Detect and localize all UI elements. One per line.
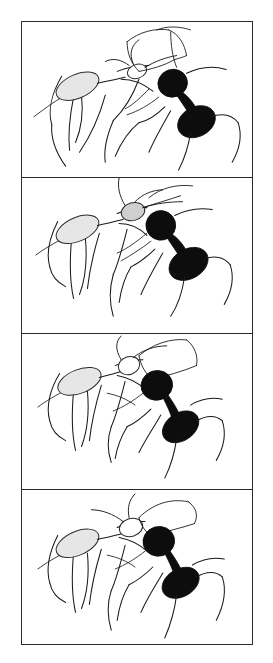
light-ant-leg-1: [50, 76, 61, 124]
dark-ant-leg-5: [141, 253, 163, 294]
light-ant-panel-4: [38, 494, 147, 630]
light-ant-leg-6: [87, 233, 99, 288]
panel-3-drawing: [22, 334, 252, 489]
figure-panel-3: [21, 333, 253, 490]
light-ant-leg-5b: [110, 275, 113, 316]
light-ant-head: [125, 61, 148, 81]
light-ant-leg-6: [89, 549, 101, 604]
light-ant-leg-1b: [50, 267, 66, 287]
dark-ant-leg-2b: [224, 265, 232, 304]
light-ant-leg-2: [70, 239, 73, 298]
light-ant-gaster: [52, 523, 103, 563]
light-ant-petiole: [97, 533, 123, 539]
light-ant-petiole: [97, 77, 125, 83]
dark-ant-leg-1: [175, 209, 213, 216]
light-ant-leg-2: [69, 97, 74, 150]
light-ant-antenna-3: [143, 202, 183, 208]
light-ant-antenna-2: [131, 40, 139, 64]
dark-ant-leg-3: [165, 439, 177, 478]
panel-4-drawing: [22, 490, 252, 644]
dark-ant-leg-4: [131, 249, 155, 267]
light-ant-gaster: [52, 66, 103, 106]
panel-stack: [21, 21, 253, 645]
dark-ant-leg-4b: [119, 267, 131, 303]
dark-ant-leg-1b: [216, 577, 224, 620]
panel-1-drawing: [22, 22, 252, 177]
dark-ant-leg-3: [171, 277, 185, 316]
dark-ant-wing-edge-5: [175, 56, 187, 60]
light-ant-gaster: [54, 362, 105, 401]
light-ant-leg-6: [113, 79, 139, 120]
light-ant-leg-1: [48, 373, 59, 420]
light-ant-panel-1: [34, 40, 177, 166]
light-ant-antenna-1: [117, 336, 121, 360]
dark-ant-gaster: [156, 404, 204, 449]
dark-ant-wing-edge-1: [127, 29, 169, 41]
light-ant-leg-3: [80, 239, 87, 294]
dark-ant-wing-edge-2: [189, 502, 197, 524]
dark-ant-leg-4: [139, 107, 165, 123]
dark-ant-leg-4b: [115, 427, 127, 459]
light-ant-leg-5: [80, 95, 106, 152]
dark-ant-leg-1: [196, 416, 222, 420]
light-ant-thorax-line-b: [119, 223, 147, 235]
dark-ant-wing-edge-1: [139, 340, 187, 356]
light-ant-leg-1b: [50, 421, 66, 441]
dark-ant-leg-4: [129, 567, 153, 585]
dark-ant-wing-edge-1: [149, 185, 193, 197]
dark-ant-leg-1: [187, 67, 227, 73]
light-ant-panel-3: [38, 336, 167, 462]
dark-ant-leg-1: [196, 572, 222, 576]
dark-ant-leg-1b: [216, 421, 224, 460]
light-ant-petiole: [99, 372, 121, 378]
figure-panel-4: [21, 489, 253, 645]
light-ant-antenna-1: [91, 510, 123, 522]
light-ant-leg-6: [89, 385, 101, 440]
dark-ant-leg-4: [127, 409, 151, 427]
dark-ant-leg-7: [127, 97, 159, 115]
light-ant-leg-1b: [52, 125, 66, 166]
light-ant-antenna-2: [128, 494, 135, 518]
light-ant-leg-6b: [105, 121, 113, 162]
dark-ant-leg-2b: [232, 123, 240, 162]
light-ant-gaster: [52, 209, 103, 249]
figure-root: [0, 0, 273, 663]
light-ant-petiole: [97, 219, 123, 225]
light-ant-antenna-1: [105, 59, 129, 65]
dark-ant-leg-2: [191, 398, 223, 405]
light-ant-panel-2: [36, 178, 183, 316]
dark-ant-leg-5: [139, 415, 161, 453]
dark-ant-leg-3: [165, 595, 177, 638]
dark-ant-leg-3: [179, 133, 191, 171]
light-ant-leg-5: [111, 381, 125, 426]
light-ant-thorax-line-b: [119, 537, 147, 551]
dark-ant-wing-edge-2: [187, 340, 197, 366]
dark-ant-wing-edge-1: [139, 501, 189, 518]
dark-ant-gaster: [163, 241, 214, 287]
panel-2-drawing: [22, 178, 252, 333]
light-ant-head: [117, 515, 145, 539]
dark-ant-leg-4b: [115, 123, 139, 157]
dark-ant-leg-2: [193, 558, 225, 565]
light-ant-leg-3: [76, 95, 83, 142]
dark-ant-gaster: [172, 99, 221, 144]
dark-ant-leg-4b: [117, 585, 129, 621]
light-ant-leg-3: [81, 391, 88, 446]
dark-ant-leg-7: [121, 241, 151, 261]
dark-ant-gaster: [157, 561, 205, 605]
figure-panel-2: [21, 177, 253, 334]
light-ant-leg-1b: [50, 583, 66, 603]
dark-ant-wing-vein: [171, 32, 177, 68]
light-ant-leg-3: [81, 553, 88, 608]
dark-ant-leg-5: [141, 573, 163, 612]
light-ant-leg-5b: [108, 427, 111, 463]
dark-ant-panel-1: [115, 27, 240, 170]
light-ant-antenna-1: [118, 178, 125, 206]
figure-panel-1: [21, 21, 253, 178]
light-ant-leg-5b: [108, 591, 111, 630]
light-ant-leg-2: [72, 553, 75, 612]
light-ant-leg-2: [72, 391, 75, 450]
